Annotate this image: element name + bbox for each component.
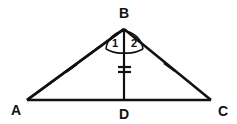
tick-mark-bc: [164, 63, 175, 71]
angle-arc-2-sweep: [124, 49, 143, 53]
vertex-label-c: C: [218, 103, 228, 119]
vertex-label-a: A: [11, 102, 21, 118]
geometry-figure: 1 2 A B C D: [0, 0, 237, 124]
angle-label-2: 2: [131, 37, 137, 49]
vertex-label-d: D: [119, 106, 129, 122]
angle-arc-1-sweep: [106, 49, 124, 53]
angle-label-1: 1: [112, 37, 118, 49]
vertex-label-b: B: [119, 5, 129, 21]
tick-mark-ab: [66, 64, 77, 72]
triangle-diagram-canvas: 1 2 A B C D: [0, 0, 237, 124]
